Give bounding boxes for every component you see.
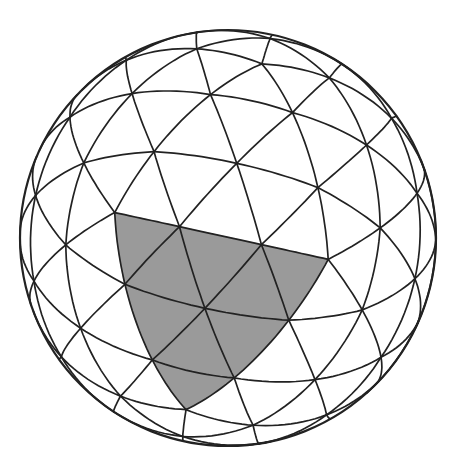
background: [0, 0, 458, 469]
sphere-edge: [196, 32, 197, 49]
geodesic-sphere-figure: [0, 0, 458, 469]
